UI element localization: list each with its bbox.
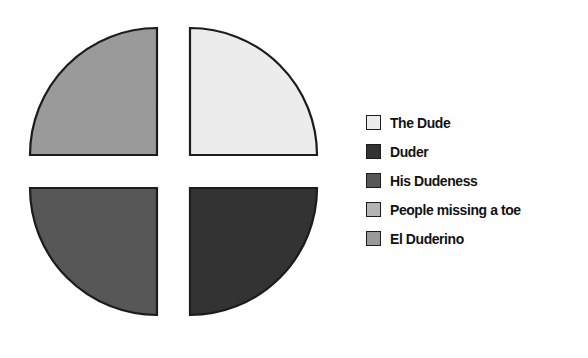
legend-swatch-people-missing-a-toe — [366, 202, 381, 217]
chart-legend: The Dude Duder His Dudeness People missi… — [366, 108, 584, 253]
legend-swatch-his-dudeness — [366, 173, 381, 188]
pie-slice-el-duderino[interactable] — [30, 28, 157, 155]
legend-item-people-missing-a-toe[interactable]: People missing a toe — [366, 195, 584, 224]
pie-slice-the-dude[interactable] — [190, 28, 317, 155]
pie-chart-figure: The Dude Duder His Dudeness People missi… — [0, 0, 588, 358]
legend-item-duder[interactable]: Duder — [366, 137, 584, 166]
pie-slice-his-dudeness[interactable] — [30, 188, 157, 315]
legend-item-el-duderino[interactable]: El Duderino — [366, 224, 584, 253]
legend-label-his-dudeness: His Dudeness — [390, 173, 477, 189]
legend-label-the-dude: The Dude — [390, 115, 450, 131]
legend-swatch-duder — [366, 144, 381, 159]
legend-item-the-dude[interactable]: The Dude — [366, 108, 584, 137]
legend-swatch-the-dude — [366, 115, 381, 130]
pie-plot-area — [14, 14, 354, 350]
pie-slice-duder[interactable] — [190, 188, 317, 315]
legend-label-people-missing-a-toe: People missing a toe — [390, 202, 521, 218]
legend-swatch-el-duderino — [366, 231, 381, 246]
legend-label-duder: Duder — [390, 144, 428, 160]
pie-svg — [14, 14, 354, 350]
legend-item-his-dudeness[interactable]: His Dudeness — [366, 166, 584, 195]
legend-label-el-duderino: El Duderino — [390, 231, 464, 247]
